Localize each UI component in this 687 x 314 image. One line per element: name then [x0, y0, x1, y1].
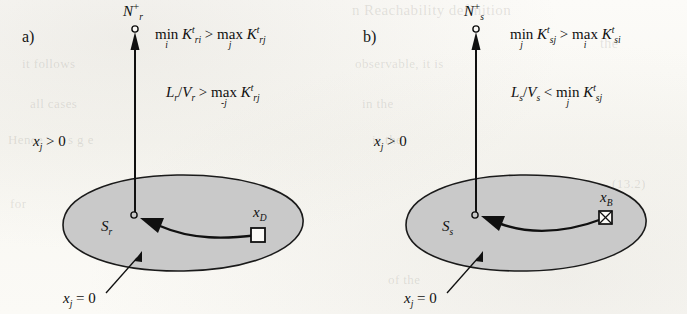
k-sub-2: si	[614, 35, 620, 45]
k-sub-1: sj	[550, 35, 556, 45]
k-base-1: K	[537, 26, 547, 42]
panel-b-set-label: Ss	[442, 219, 453, 234]
min-limit: j	[510, 41, 533, 51]
top-node-sub: r	[139, 12, 143, 22]
node-marker-set	[131, 212, 137, 218]
panel-a-label: a)	[22, 28, 34, 46]
relation-2: <	[544, 84, 552, 100]
panel-b-outside-annotation: xj > 0	[374, 134, 407, 149]
min-operator-2: minj	[556, 85, 579, 100]
region-sub: j	[411, 299, 414, 309]
v-base: V	[527, 84, 536, 100]
target-sub: B	[607, 198, 613, 208]
k-base-3: K	[583, 84, 593, 100]
node-marker-set	[472, 212, 478, 218]
top-node-sup: +	[133, 0, 139, 12]
panel-a: a) N+r mini Ktri > maxj Ktrj Lr/Vr > max…	[0, 0, 344, 314]
region-base: x	[404, 290, 411, 306]
set-base: S	[101, 218, 109, 234]
region-rel: = 0	[76, 290, 96, 306]
target-sub: D	[260, 213, 267, 223]
min-operator: minj	[510, 27, 533, 42]
escape-arrow-head	[472, 32, 481, 50]
scanned-figure: n Reachability definitiontheit followsob…	[0, 0, 687, 314]
k-sup-2: t	[612, 25, 615, 35]
set-base: S	[442, 218, 450, 234]
panel-a-set-label: Sr	[101, 219, 112, 234]
k-sub-1: ri	[195, 35, 201, 45]
panel-a-formula-2: Lr/Vr > max-j Ktrj	[166, 85, 260, 100]
top-node-sub: s	[480, 12, 484, 22]
k-sup-3: t	[251, 83, 254, 93]
relation-2: >	[199, 84, 207, 100]
panel-b: b) N+s minj Ktsj > maxi Ktsi Ls/Vs < min…	[343, 0, 687, 314]
relation-1: >	[560, 26, 568, 42]
min-limit: i	[155, 41, 178, 51]
k-sup-2: t	[257, 25, 260, 35]
relation-1: >	[205, 26, 213, 42]
panel-a-outside-annotation: xj > 0	[33, 134, 66, 149]
set-sub: r	[109, 227, 113, 237]
node-marker-top	[132, 26, 138, 32]
panel-b-target-label: xB	[600, 190, 612, 205]
panel-b-top-node-label: N+s	[464, 4, 484, 19]
panel-a-top-node-label: N+r	[123, 4, 143, 19]
panel-a-target-label: xD	[253, 205, 267, 220]
k-sup-1: t	[547, 25, 550, 35]
max-operator: maxi	[572, 27, 598, 42]
target-base: x	[600, 189, 607, 205]
target-state-marker	[251, 228, 265, 242]
v-base: V	[182, 84, 191, 100]
v-sub: s	[536, 93, 540, 103]
set-sub: s	[450, 227, 454, 237]
panel-b-region-annotation: xj = 0	[404, 291, 437, 306]
panel-b-formula-1: minj Ktsj > maxi Ktsi	[510, 27, 621, 42]
panel-b-formula-2: Ls/Vs < minj Ktsj	[511, 85, 602, 100]
k-sub-3: sj	[596, 93, 602, 103]
k-base-3: K	[241, 84, 251, 100]
max-limit: i	[572, 41, 598, 51]
k-base-1: K	[182, 26, 192, 42]
min-limit-2: j	[556, 99, 579, 109]
top-node-base: N	[123, 3, 133, 19]
k-base-2: K	[602, 26, 612, 42]
region-rel: = 0	[417, 290, 437, 306]
escape-arrow-head	[131, 32, 140, 50]
panel-a-region-annotation: xj = 0	[63, 291, 96, 306]
reachable-set-region	[63, 175, 303, 271]
max-limit: j	[217, 41, 243, 51]
outside-sub: j	[40, 142, 43, 152]
region-sub: j	[70, 299, 73, 309]
target-base: x	[253, 204, 260, 220]
outside-base: x	[33, 133, 40, 149]
region-base: x	[63, 290, 70, 306]
outside-rel: > 0	[387, 133, 407, 149]
top-node-base: N	[464, 3, 474, 19]
k-sub-3: rj	[253, 93, 259, 103]
v-sub: r	[191, 93, 195, 103]
max-operator: maxj	[217, 27, 243, 42]
outside-rel: > 0	[46, 133, 66, 149]
min-operator: mini	[155, 27, 178, 42]
k-sub-2: rj	[259, 35, 265, 45]
max-limit-2: -j	[211, 99, 237, 109]
k-sup-1: t	[192, 25, 195, 35]
k-base-2: K	[247, 26, 257, 42]
max-operator-2: max-j	[211, 85, 237, 100]
outside-base: x	[374, 133, 381, 149]
node-marker-top	[473, 26, 479, 32]
outside-sub: j	[381, 142, 384, 152]
top-node-sup: +	[474, 0, 480, 12]
panel-b-label: b)	[363, 28, 376, 46]
k-sup-3: t	[593, 83, 596, 93]
panel-a-formula-1: mini Ktri > maxj Ktrj	[155, 27, 266, 42]
